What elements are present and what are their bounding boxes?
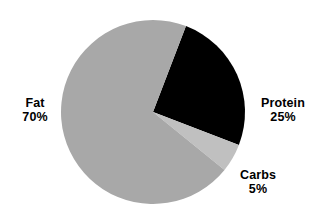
slice-label-fat-value: 70%: [2, 110, 68, 124]
slice-label-carbs: Carbs 5%: [224, 168, 292, 196]
slice-label-protein-value: 25%: [248, 110, 318, 124]
slice-label-carbs-value: 5%: [224, 182, 292, 196]
slice-label-fat-name: Fat: [2, 96, 68, 110]
slice-label-carbs-name: Carbs: [224, 168, 292, 182]
slice-label-protein: Protein 25%: [248, 96, 318, 124]
slice-label-fat: Fat 70%: [2, 96, 68, 124]
slice-label-protein-name: Protein: [248, 96, 318, 110]
pie-chart: Fat 70% Protein 25% Carbs 5%: [0, 0, 320, 221]
pie-slices-group: [61, 20, 245, 204]
